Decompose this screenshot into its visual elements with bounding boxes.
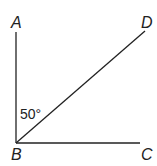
angle-figure: A B C D 50° xyxy=(0,0,157,166)
label-b: B xyxy=(11,146,22,163)
angle-label: 50° xyxy=(20,106,41,122)
label-c: C xyxy=(141,146,153,163)
geometry-diagram: A B C D 50° xyxy=(0,0,157,166)
ray-bd xyxy=(16,31,145,143)
label-d: D xyxy=(141,14,153,31)
label-a: A xyxy=(10,14,22,31)
